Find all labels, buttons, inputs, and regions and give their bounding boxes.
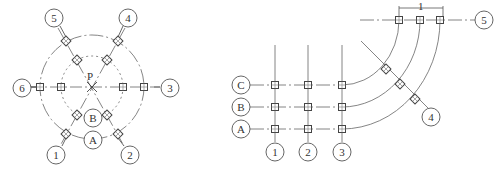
orthogonal-grid [250,6,476,142]
axis-label-3-right: 3 [339,146,345,158]
axis-label-4-right: 4 [428,111,434,123]
axis-label-5: 5 [51,12,57,24]
axis-label-b-right: B [237,101,244,113]
axis-label-a-right: A [237,123,245,135]
axis-label-c: C [237,79,244,91]
axis-label-2-right: 2 [305,146,311,158]
axis-label-a: A [89,134,97,146]
center-label: P [87,70,93,82]
axis-label-b: B [89,112,96,124]
axis-label-1: 1 [53,149,59,161]
dimension-label: 1 [418,0,424,12]
orthogonal-nodes [272,17,444,133]
axis-label-2: 2 [127,149,133,161]
axis-label-5-right: 5 [481,14,487,26]
diagram-canvas: P 5 4 6 3 1 2 B A [0,0,500,173]
axis-label-3: 3 [167,82,173,94]
axis-label-1-right: 1 [272,146,278,158]
axis-label-6: 6 [19,82,25,94]
curved-axis-c [342,20,399,85]
axis-label-4: 4 [125,12,131,24]
curved-axis-b [342,20,420,107]
